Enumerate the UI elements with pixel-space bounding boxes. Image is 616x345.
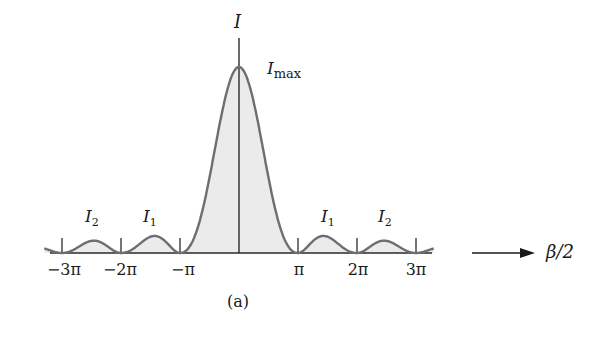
i2-sub: 2 bbox=[92, 216, 99, 229]
imax-label-sub: max bbox=[274, 66, 301, 81]
i2-sub: 2 bbox=[385, 216, 392, 229]
i1-sub: 1 bbox=[150, 216, 157, 229]
arrow-head-icon bbox=[520, 248, 535, 258]
i1-sub: 1 bbox=[328, 216, 335, 229]
i1-label-right: I1 bbox=[321, 206, 335, 229]
i1-main: I bbox=[143, 206, 150, 226]
imax-label-main: I bbox=[267, 58, 274, 78]
i1-main: I bbox=[321, 206, 328, 226]
tick-label-neg2pi: −2π bbox=[103, 260, 137, 279]
figure-caption: (a) bbox=[227, 292, 249, 311]
tick-label-3pi: 3π bbox=[406, 260, 427, 279]
tick-label-negpi: −π bbox=[171, 260, 195, 279]
intensity-plot bbox=[0, 0, 616, 345]
i2-main: I bbox=[378, 206, 385, 226]
i2-label-left: I2 bbox=[85, 206, 99, 229]
x-axis-label: β/2 bbox=[546, 241, 574, 262]
tick-label-2pi: 2π bbox=[348, 260, 369, 279]
tick-label-neg3pi: −3π bbox=[47, 260, 81, 279]
y-axis-label: I bbox=[234, 11, 241, 32]
beta-axis-arrow bbox=[472, 248, 535, 258]
i2-label-right: I2 bbox=[378, 206, 392, 229]
i2-main: I bbox=[85, 206, 92, 226]
imax-label: Imax bbox=[267, 58, 301, 81]
tick-label-pi: π bbox=[294, 260, 305, 279]
i1-label-left: I1 bbox=[143, 206, 157, 229]
